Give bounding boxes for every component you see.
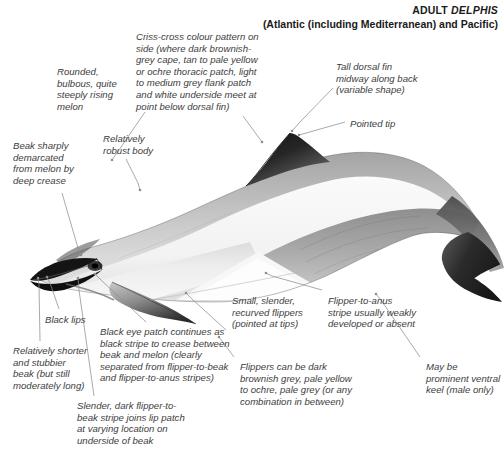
dorsal-fin-leader-anchor (291, 130, 294, 133)
annotation-robust-body: Relatively robust body (103, 133, 153, 156)
black-lips-leader-anchor (46, 276, 49, 279)
flippers-leader-anchor (185, 292, 188, 295)
taxon-prefix: ADULT (412, 4, 451, 16)
annotation-ventral-keel: May be prominent ventral keel (male only… (426, 361, 500, 396)
plate-header: ADULT DELPHIS (Atlantic (including Medit… (263, 4, 498, 32)
dorsal-fin-leader (292, 88, 333, 131)
annotation-flipper-anus-stripe: Flipper-to-anus stripe usually weakly de… (328, 295, 416, 330)
annotation-black-lips: Black lips (45, 314, 86, 326)
melon-leader-anchor (111, 159, 114, 162)
taxon-title: ADULT DELPHIS (263, 4, 498, 17)
annotation-criss-cross: Criss-cross colour pattern on side (wher… (136, 31, 259, 112)
flipper-anus-leader (266, 273, 322, 290)
pointed-tip-leader-anchor (298, 134, 301, 137)
eye-patch-leader (95, 274, 146, 322)
annotation-beak-crease: Beak sharply demarcated from melon by de… (13, 140, 74, 186)
criss-cross-leader-anchor (261, 141, 264, 144)
eye-patch-leader-anchor (94, 273, 97, 276)
annotation-lip-patch-stripe: Slender, dark flipper-to- beak stripe jo… (77, 400, 185, 446)
taxon-species: DELPHIS (451, 4, 498, 16)
beak-crease-leader (62, 193, 81, 255)
dolphin-identification-plate: ADULT DELPHIS (Atlantic (including Medit… (0, 0, 504, 449)
annotation-melon: Rounded, bulbous, quite steeply rising m… (57, 66, 117, 112)
robust-body-leader-anchor (139, 189, 142, 192)
annotation-eye-patch: Black eye patch continues as black strip… (100, 326, 230, 384)
annotation-dorsal-fin: Tall dorsal fin midway along back (varia… (336, 61, 418, 96)
taxon-range: (Atlantic (including Mediterranean) and … (263, 18, 498, 31)
flipper-anus-leader-anchor (265, 272, 268, 275)
black-lips-leader (47, 277, 59, 309)
annotation-flippers-shape: Small, slender, recurved flippers (point… (232, 295, 303, 330)
pointed-tip-leader (299, 122, 345, 135)
flippers-leader (186, 293, 226, 330)
criss-cross-leader (243, 116, 262, 142)
lip-patch-leader-anchor (77, 277, 80, 280)
annotation-short-beak: Relatively shorter and stubbier beak (bu… (13, 345, 87, 391)
annotation-pointed-tip: Pointed tip (350, 118, 395, 130)
short-beak-leader (38, 278, 40, 341)
beak-crease-leader-anchor (80, 254, 83, 257)
annotation-flipper-colour: Flippers can be dark brownish grey, pale… (240, 361, 352, 407)
robust-body-leader (126, 159, 140, 190)
short-beak-leader-anchor (37, 277, 40, 280)
